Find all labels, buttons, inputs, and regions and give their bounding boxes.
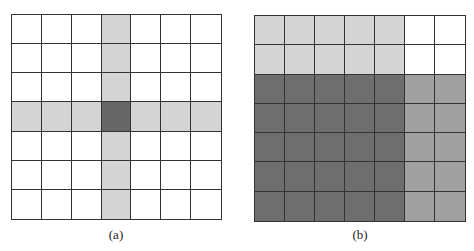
grid-cell-dark: [285, 75, 315, 104]
grid-cell-white: [42, 132, 72, 161]
grid-cell-light: [255, 45, 285, 74]
grid-cell-dark: [285, 192, 315, 221]
panel-label-a: (a): [109, 227, 123, 243]
grid-cell-white: [191, 132, 221, 161]
grid-cell-dark: [345, 133, 375, 162]
grid-cell-white: [131, 190, 161, 219]
grid-cell-light: [102, 15, 132, 44]
grid-cell-medium: [405, 75, 435, 104]
grid-cell-dark: [375, 133, 405, 162]
grid-cell-light: [72, 102, 102, 131]
grid-cell-medium: [405, 104, 435, 133]
grid-cell-dark: [315, 104, 345, 133]
grid-cell-white: [435, 16, 465, 45]
grid-cell-white: [12, 44, 42, 73]
grid-cell-white: [405, 16, 435, 45]
grid-cell-light: [191, 102, 221, 131]
grid-cell-center: [102, 102, 132, 131]
grid-cell-light: [102, 190, 132, 219]
grid-cell-white: [131, 15, 161, 44]
grid-cell-dark: [345, 104, 375, 133]
grid-cell-white: [72, 15, 102, 44]
grid-cell-white: [191, 15, 221, 44]
grid-cell-dark: [345, 192, 375, 221]
grid-cell-dark: [315, 75, 345, 104]
grid-cell-dark: [375, 75, 405, 104]
grid-cell-dark: [375, 104, 405, 133]
grid-cell-dark: [255, 162, 285, 191]
grid-cell-white: [161, 190, 191, 219]
grid-cell-light: [255, 16, 285, 45]
grid-cell-white: [72, 132, 102, 161]
grid-cell-white: [161, 73, 191, 102]
grid-cell-white: [161, 132, 191, 161]
grid-cell-light: [285, 16, 315, 45]
grid-cell-medium: [405, 162, 435, 191]
grid-cell-white: [161, 15, 191, 44]
grid-a: [11, 14, 222, 220]
grid-cell-dark: [315, 133, 345, 162]
grid-cell-light: [345, 45, 375, 74]
grid-cell-white: [12, 190, 42, 219]
grid-cell-white: [131, 44, 161, 73]
grid-cell-white: [405, 45, 435, 74]
grid-cell-medium: [405, 133, 435, 162]
grid-cell-white: [72, 190, 102, 219]
grid-cell-white: [131, 132, 161, 161]
grid-cell-dark: [255, 75, 285, 104]
grid-cell-dark: [255, 133, 285, 162]
grid-cell-light: [375, 45, 405, 74]
grid-cell-white: [191, 190, 221, 219]
grid-cell-white: [42, 44, 72, 73]
grid-cell-white: [191, 73, 221, 102]
grid-cell-medium: [435, 104, 465, 133]
grid-cell-white: [12, 161, 42, 190]
grid-cell-dark: [255, 192, 285, 221]
grid-cell-white: [191, 161, 221, 190]
grid-cell-light: [42, 102, 72, 131]
grid-cell-white: [42, 161, 72, 190]
grid-cell-dark: [285, 162, 315, 191]
grid-cell-medium: [435, 162, 465, 191]
grid-cell-dark: [345, 75, 375, 104]
grid-cell-light: [315, 45, 345, 74]
grid-cell-white: [12, 132, 42, 161]
grid-cell-white: [42, 190, 72, 219]
grid-cell-white: [42, 73, 72, 102]
grid-cell-medium: [435, 75, 465, 104]
grid-cell-white: [131, 73, 161, 102]
grid-cell-white: [131, 161, 161, 190]
grid-cell-light: [102, 132, 132, 161]
grid-cell-light: [375, 16, 405, 45]
grid-cell-white: [72, 44, 102, 73]
grid-cell-white: [161, 44, 191, 73]
grid-cell-light: [102, 73, 132, 102]
grid-cell-white: [12, 73, 42, 102]
grid-cell-dark: [315, 162, 345, 191]
grid-cell-white: [72, 161, 102, 190]
grid-cell-dark: [285, 104, 315, 133]
grid-cell-medium: [435, 133, 465, 162]
grid-cell-light: [131, 102, 161, 131]
grid-cell-medium: [435, 192, 465, 221]
grid-cell-white: [435, 45, 465, 74]
grid-cell-light: [161, 102, 191, 131]
grid-cell-dark: [375, 192, 405, 221]
grid-cell-white: [191, 44, 221, 73]
grid-cell-dark: [255, 104, 285, 133]
grid-cell-white: [12, 15, 42, 44]
grid-cell-light: [315, 16, 345, 45]
grid-cell-light: [102, 44, 132, 73]
grid-cell-dark: [315, 192, 345, 221]
grid-cell-white: [72, 73, 102, 102]
grid-cell-light: [12, 102, 42, 131]
grid-cell-medium: [405, 192, 435, 221]
panel-label-b: (b): [352, 227, 367, 243]
grid-cell-light: [102, 161, 132, 190]
grid-cell-light: [345, 16, 375, 45]
grid-cell-white: [161, 161, 191, 190]
grid-cell-dark: [375, 162, 405, 191]
grid-cell-white: [42, 15, 72, 44]
grid-cell-light: [285, 45, 315, 74]
grid-cell-dark: [345, 162, 375, 191]
